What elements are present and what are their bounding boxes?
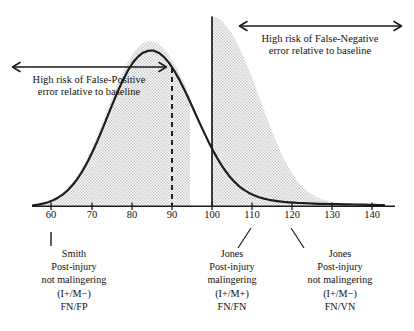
axis-tick-label-70: 70 bbox=[77, 209, 107, 221]
annotation-false-negative-line1: High risk of False-Negative bbox=[232, 33, 408, 45]
axis-tick-label-130: 130 bbox=[317, 209, 347, 221]
annotation-false-positive: High risk of False-Positive error relati… bbox=[6, 74, 172, 99]
case-smith-malingering: not malingering bbox=[0, 273, 148, 286]
arrow-false-negative bbox=[240, 22, 402, 31]
axis-tick-label-110: 110 bbox=[237, 209, 267, 221]
shaded-region-false-positive bbox=[33, 41, 190, 206]
axis-tick-label-100: 100 bbox=[197, 209, 227, 221]
case-jones-mal-malingering: malingering bbox=[177, 273, 287, 286]
axis-tick-label-140: 140 bbox=[357, 209, 387, 221]
figure-canvas: High risk of False-Positive error relati… bbox=[0, 0, 414, 331]
annotation-false-negative-line2: error relative to baseline bbox=[232, 45, 408, 57]
case-jones-notmal-malingering: not malingering bbox=[276, 273, 404, 286]
axis-tick-label-90: 90 bbox=[157, 209, 187, 221]
case-smith-status: Post-injury bbox=[0, 260, 148, 273]
case-smith-name: Smith bbox=[0, 247, 148, 260]
case-smith-outcome: FN/FP bbox=[0, 300, 148, 313]
axis-tick-label-120: 120 bbox=[277, 209, 307, 221]
leader-line-jones-not-malingering bbox=[291, 228, 304, 248]
case-jones-notmal-name: Jones bbox=[276, 247, 404, 260]
case-jones-mal-code: (I+/M+) bbox=[177, 287, 287, 300]
annotation-false-positive-line2: error relative to baseline bbox=[6, 86, 172, 98]
case-jones-mal-status: Post-injury bbox=[177, 260, 287, 273]
axis-tick-label-60: 60 bbox=[36, 209, 66, 221]
case-jones-notmal-code: (I+/M−) bbox=[276, 287, 404, 300]
case-jones-mal-name: Jones bbox=[177, 247, 287, 260]
case-jones-notmal-status: Post-injury bbox=[276, 260, 404, 273]
case-jones-notmal-outcome: FN/VN bbox=[276, 300, 404, 313]
annotation-false-positive-line1: High risk of False-Positive bbox=[6, 74, 172, 86]
case-jones-mal-outcome: FN/FN bbox=[177, 300, 287, 313]
case-label-jones-not-malingering: Jones Post-injury not malingering (I+/M−… bbox=[276, 247, 404, 313]
case-smith-code: (I+/M−) bbox=[0, 287, 148, 300]
annotation-false-negative: High risk of False-Negative error relati… bbox=[232, 33, 408, 58]
case-label-smith: Smith Post-injury not malingering (I+/M−… bbox=[0, 247, 148, 313]
axis-tick-label-80: 80 bbox=[117, 209, 147, 221]
case-label-jones-malingering: Jones Post-injury malingering (I+/M+) FN… bbox=[177, 247, 287, 313]
leader-line-jones-malingering bbox=[238, 228, 251, 248]
